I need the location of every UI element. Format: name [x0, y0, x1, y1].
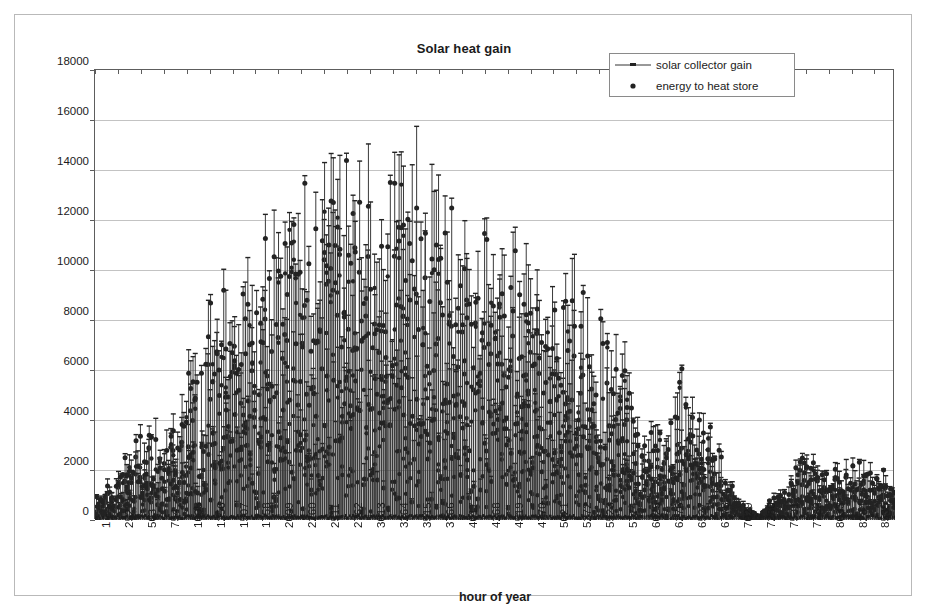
x-tick-label: 2511 [329, 503, 341, 528]
x-tick-label: 4519 [513, 502, 525, 528]
x-tick-mark [485, 70, 486, 74]
y-tick-mark [90, 270, 95, 271]
x-tick-label: 6778 [719, 502, 731, 528]
x-tick-mark [416, 70, 417, 74]
x-tick-label: 8033 [834, 502, 846, 528]
y-tick-label: 10000 [43, 252, 89, 270]
legend-label-0: solar collector gain [656, 59, 752, 71]
x-tick-label: 7280 [765, 502, 777, 528]
y-tick-label: 8000 [43, 302, 89, 320]
x-tick-label: 3515 [421, 502, 433, 528]
x-tick-mark [233, 70, 234, 74]
legend-item-energy-to-heat-store: energy to heat store [610, 75, 794, 96]
x-tick-mark [164, 70, 165, 74]
x-tick-label: 754 [169, 509, 181, 528]
x-tick-label: 3013 [375, 502, 387, 528]
x-tick-mark [508, 70, 509, 74]
x-tick-label: 252 [123, 509, 135, 528]
y-tick-label: 14000 [43, 152, 89, 170]
y-tick-mark [90, 170, 95, 171]
x-tick-label: 1507 [238, 502, 250, 528]
x-tick-label: 7782 [811, 502, 823, 528]
y-tick-label: 18000 [43, 52, 89, 70]
y-tick-mark [90, 370, 95, 371]
y-tick-mark [90, 220, 95, 221]
x-tick-mark [210, 70, 211, 74]
x-tick-mark [874, 70, 875, 74]
x-tick-label: 5021 [558, 502, 570, 528]
x-tick-label: 6527 [696, 502, 708, 528]
y-tick-label: 4000 [43, 402, 89, 420]
y-axis-ticks: 0200040006000800010000120001400016000180… [43, 61, 89, 529]
x-tick-mark [576, 70, 577, 74]
x-tick-mark [324, 70, 325, 74]
x-tick-label: 5272 [581, 502, 593, 528]
y-tick-label: 16000 [43, 102, 89, 120]
x-tick-label: 6276 [673, 502, 685, 528]
y-tick-mark [90, 470, 95, 471]
y-tick-label: 2000 [43, 452, 89, 470]
dot-marker-icon [610, 81, 656, 91]
plot-area: 0200040006000800010000120001400016000180… [94, 69, 894, 519]
x-tick-label: 3264 [398, 502, 410, 528]
x-tick-label: 1 [100, 522, 112, 528]
x-tick-label: 1005 [192, 502, 204, 528]
x-tick-label: 503 [146, 509, 158, 528]
x-tick-mark [255, 70, 256, 74]
x-tick-mark [829, 70, 830, 74]
line-marker-icon [610, 60, 656, 70]
legend-item-solar-collector-gain: solar collector gain [610, 54, 794, 75]
x-axis-ticks: 1252503754100512561507175820092260251127… [95, 522, 895, 594]
x-tick-mark [806, 70, 807, 74]
y-tick-mark [90, 420, 95, 421]
data-series-canvas [95, 70, 895, 520]
x-tick-mark [347, 70, 348, 74]
x-tick-label: 5523 [604, 502, 616, 528]
x-tick-label: 1758 [260, 502, 272, 528]
chart-legend: solar collector gain energy to heat stor… [609, 53, 795, 97]
x-tick-mark [141, 70, 142, 74]
x-tick-mark [278, 70, 279, 74]
x-tick-label: 5774 [627, 502, 639, 528]
x-axis-label: hour of year [95, 590, 895, 604]
x-tick-label: 8535 [879, 502, 891, 528]
y-tick-mark [90, 320, 95, 321]
x-tick-label: 7531 [788, 502, 800, 528]
y-tick-label: 6000 [43, 352, 89, 370]
x-tick-label: 2260 [306, 502, 318, 528]
x-tick-mark [301, 70, 302, 74]
x-tick-mark [462, 70, 463, 74]
x-tick-mark [852, 70, 853, 74]
x-tick-label: 3766 [444, 502, 456, 528]
x-tick-label: 8284 [857, 502, 869, 528]
x-tick-label: 7029 [742, 502, 754, 528]
x-tick-label: 4770 [536, 502, 548, 528]
y-tick-mark [90, 520, 95, 521]
y-tick-label: 0 [43, 502, 89, 520]
x-tick-mark [531, 70, 532, 74]
y-tick-mark [90, 120, 95, 121]
x-tick-mark [95, 70, 96, 74]
x-tick-label: 2762 [352, 502, 364, 528]
x-tick-label: 1256 [215, 502, 227, 528]
x-tick-mark [187, 70, 188, 74]
x-tick-label: 2009 [283, 502, 295, 528]
x-tick-mark [599, 70, 600, 74]
chart-frame: Solar heat gain W 0200040006000800010000… [14, 14, 912, 596]
x-tick-label: 4017 [467, 502, 479, 528]
x-tick-label: 6025 [650, 502, 662, 528]
x-tick-label: 4268 [490, 502, 502, 528]
x-tick-mark [370, 70, 371, 74]
y-tick-label: 12000 [43, 202, 89, 220]
x-tick-mark [118, 70, 119, 74]
x-tick-mark [553, 70, 554, 74]
x-tick-mark [393, 70, 394, 74]
x-tick-mark [439, 70, 440, 74]
legend-label-1: energy to heat store [656, 80, 758, 92]
